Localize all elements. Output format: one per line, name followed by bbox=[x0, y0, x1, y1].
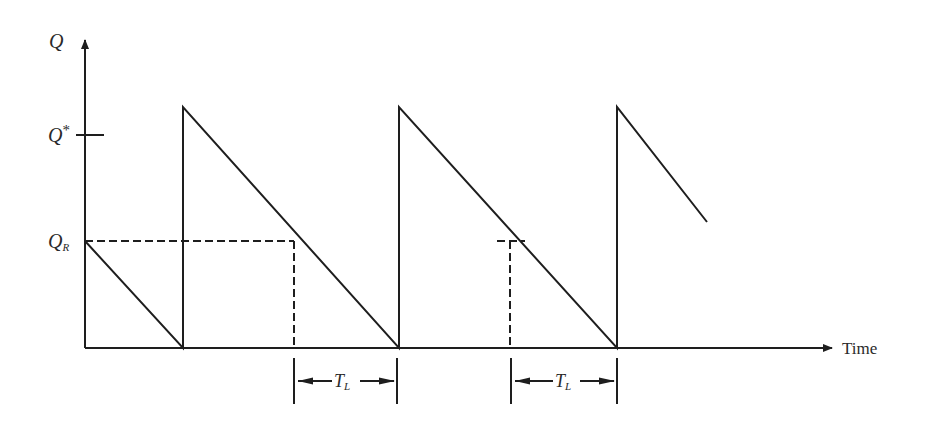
inventory-sawtooth-line bbox=[85, 107, 707, 348]
q-r-label: QR bbox=[48, 230, 69, 253]
q-star-label: Q* bbox=[48, 122, 70, 146]
lead-time-label-2: TL bbox=[555, 371, 571, 392]
reorder-point-lines bbox=[85, 241, 525, 348]
lead-time-label-1: TL bbox=[334, 371, 350, 392]
x-axis-label: Time bbox=[842, 339, 877, 358]
y-axis-label: Q bbox=[49, 30, 64, 52]
inventory-diagram: Q Q* QR Time TL TL bbox=[0, 0, 928, 424]
